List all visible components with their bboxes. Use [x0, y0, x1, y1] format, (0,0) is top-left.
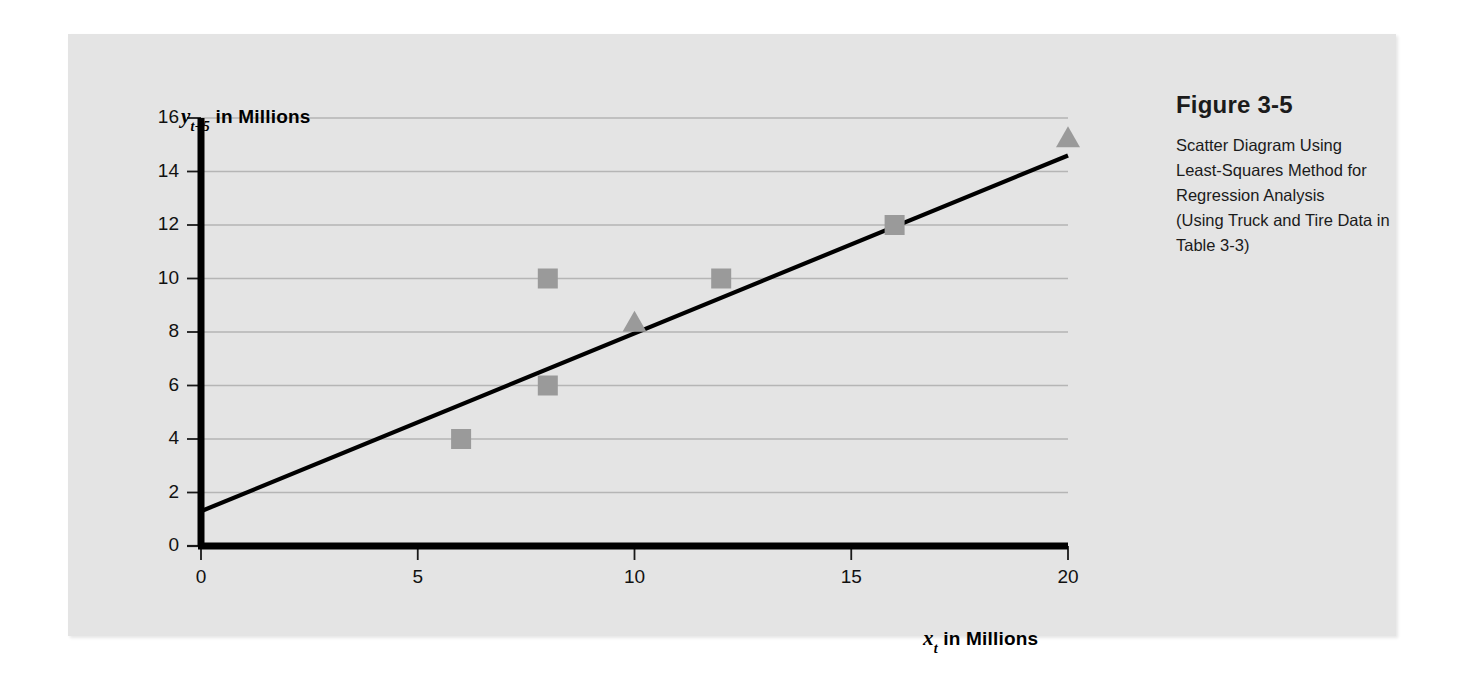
y-axis-tick-label-14: 14 — [139, 160, 179, 182]
marker-square-0-2 — [538, 376, 558, 396]
marker-square-0-1 — [538, 269, 558, 289]
figure-caption-body: Scatter Diagram UsingLeast-Squares Metho… — [1176, 133, 1446, 258]
y-axis-suffix: in Millions — [210, 106, 311, 127]
figure-number-title: Figure 3-5 — [1176, 91, 1446, 119]
y-axis-tick-label-4: 4 — [139, 427, 179, 449]
y-axis-tick-label-2: 2 — [139, 481, 179, 503]
y-axis-tick-label-12: 12 — [139, 213, 179, 235]
marker-square-0-3 — [711, 269, 731, 289]
marker-square-0-4 — [885, 215, 905, 235]
figure-panel: yt+5 in Millions xt in Millions 02468101… — [68, 34, 1396, 636]
data-markers — [451, 126, 1080, 449]
gridlines — [201, 118, 1068, 493]
x-axis-tick-label-0: 0 — [181, 566, 221, 588]
y-axis-tick-label-16: 16 — [139, 106, 179, 128]
x-axis-title: xt in Millions — [923, 626, 1038, 654]
x-axis-tick-label-15: 15 — [831, 566, 871, 588]
y-axis-tick-label-6: 6 — [139, 374, 179, 396]
x-axis-subscript: t — [934, 641, 938, 656]
marker-triangle-1-0 — [623, 311, 647, 332]
marker-square-0-0 — [451, 429, 471, 449]
regression-line — [201, 155, 1068, 511]
figure-caption: Figure 3-5 Scatter Diagram UsingLeast-Sq… — [1176, 91, 1446, 258]
x-axis-tick-label-5: 5 — [398, 566, 438, 588]
caption-line-3: Regression Analysis — [1176, 183, 1446, 208]
y-axis-variable: y — [181, 104, 191, 128]
x-axis-tick-label-20: 20 — [1048, 566, 1088, 588]
x-axis-tick-label-10: 10 — [615, 566, 655, 588]
y-axis-subscript: t+5 — [191, 119, 210, 134]
caption-line-4: (Using Truck and Tire Data in — [1176, 208, 1446, 233]
least-squares-line — [201, 155, 1068, 511]
caption-line-2: Least-Squares Method for — [1176, 158, 1446, 183]
x-axis-variable: x — [923, 626, 934, 650]
y-axis-tick-label-8: 8 — [139, 320, 179, 342]
y-axis-tick-label-0: 0 — [139, 534, 179, 556]
x-axis-suffix: in Millions — [938, 628, 1039, 649]
caption-line-1: Scatter Diagram Using — [1176, 133, 1446, 158]
marker-triangle-1-1 — [1056, 126, 1080, 147]
figure-root: yt+5 in Millions xt in Millions 02468101… — [0, 0, 1460, 685]
y-axis-tick-label-10: 10 — [139, 267, 179, 289]
y-axis-title: yt+5 in Millions — [181, 104, 311, 132]
scatter-chart: yt+5 in Millions xt in Millions 02468101… — [68, 34, 1108, 636]
caption-line-5: Table 3-3) — [1176, 233, 1446, 258]
